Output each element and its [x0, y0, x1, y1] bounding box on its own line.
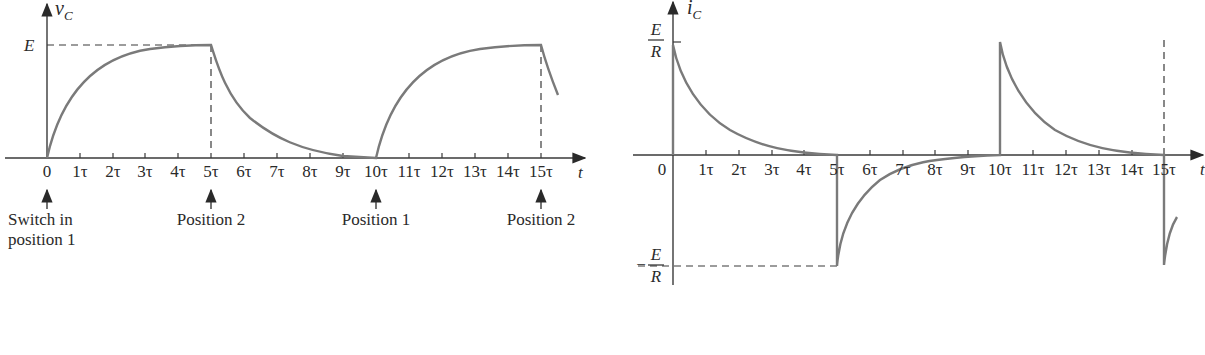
svg-text:12τ: 12τ — [1054, 160, 1078, 179]
vc-t-label: t — [578, 163, 584, 182]
ic-t-label: t — [1200, 160, 1205, 179]
vc-curve — [47, 45, 558, 158]
ic-neg-er-label: − E R — [636, 245, 664, 286]
svg-text:10τ: 10τ — [988, 160, 1012, 179]
vc-e-label: E — [23, 36, 35, 55]
svg-text:Position 2: Position 2 — [507, 210, 576, 229]
svg-text:3τ: 3τ — [137, 162, 153, 181]
svg-text:15τ: 15τ — [529, 162, 553, 181]
ic-curve — [673, 42, 1177, 266]
svg-text:9τ: 9τ — [960, 160, 976, 179]
svg-text:0: 0 — [43, 162, 52, 181]
svg-text:1τ: 1τ — [72, 162, 88, 181]
svg-text:6τ: 6τ — [236, 162, 252, 181]
svg-text:6τ: 6τ — [862, 160, 878, 179]
vc-y-label: vC — [55, 0, 73, 23]
svg-text:9τ: 9τ — [335, 162, 351, 181]
svg-text:11τ: 11τ — [397, 162, 420, 181]
vc-switch-annotations: Switch in position 1 Position 2 Position… — [8, 190, 575, 249]
svg-text:11τ: 11τ — [1021, 160, 1044, 179]
svg-text:7τ: 7τ — [895, 160, 911, 179]
ic-er-label: E R — [648, 20, 664, 61]
svg-text:14τ: 14τ — [496, 162, 520, 181]
svg-text:1τ: 1τ — [698, 160, 714, 179]
svg-text:E: E — [650, 245, 662, 264]
svg-text:14τ: 14τ — [1120, 160, 1144, 179]
svg-text:E: E — [650, 20, 662, 39]
svg-text:position 1: position 1 — [8, 230, 76, 249]
ic-x-ticks — [706, 150, 1132, 155]
svg-text:5τ: 5τ — [829, 160, 845, 179]
svg-text:2τ: 2τ — [731, 160, 747, 179]
svg-text:7τ: 7τ — [269, 162, 285, 181]
svg-text:Position 2: Position 2 — [177, 210, 246, 229]
vc-chart: E vC t 0 1τ 2τ 3τ 4τ 5τ 6τ 7τ 8τ 9τ 10τ … — [5, 0, 585, 249]
vc-x-ticks — [80, 153, 508, 158]
svg-text:4τ: 4τ — [170, 162, 186, 181]
svg-text:13τ: 13τ — [1087, 160, 1111, 179]
svg-text:15τ: 15τ — [1152, 160, 1176, 179]
figure-canvas: E vC t 0 1τ 2τ 3τ 4τ 5τ 6τ 7τ 8τ 9τ 10τ … — [0, 0, 1205, 355]
svg-text:13τ: 13τ — [463, 162, 487, 181]
svg-text:Position 1: Position 1 — [342, 210, 411, 229]
svg-text:3τ: 3τ — [764, 160, 780, 179]
ic-y-label: iC — [687, 0, 702, 22]
svg-text:10τ: 10τ — [364, 162, 388, 181]
svg-text:0: 0 — [658, 160, 667, 179]
svg-text:5τ: 5τ — [203, 162, 219, 181]
svg-text:12τ: 12τ — [430, 162, 454, 181]
svg-text:8τ: 8τ — [927, 160, 943, 179]
svg-text:R: R — [650, 42, 662, 61]
svg-text:4τ: 4τ — [796, 160, 812, 179]
svg-text:2τ: 2τ — [105, 162, 121, 181]
svg-text:8τ: 8τ — [302, 162, 318, 181]
svg-text:Switch in: Switch in — [8, 210, 73, 229]
svg-text:−: − — [636, 255, 646, 274]
ic-chart: iC E R − E R t 0 1τ 2τ 3τ 4τ 5τ 6τ 7τ 8τ… — [633, 0, 1205, 286]
svg-text:R: R — [650, 267, 662, 286]
vc-x-tick-labels: 0 1τ 2τ 3τ 4τ 5τ 6τ 7τ 8τ 9τ 10τ 11τ 12τ… — [43, 162, 553, 181]
